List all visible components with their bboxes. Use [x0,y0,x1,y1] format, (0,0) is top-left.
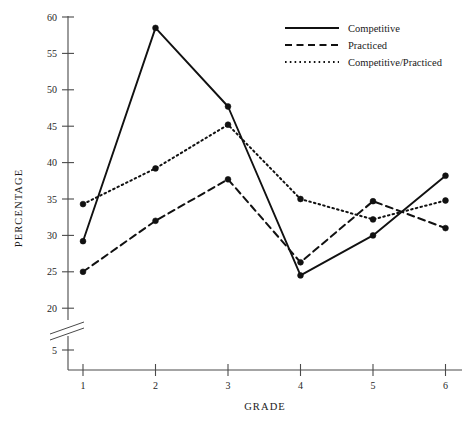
chart-figure: 6055504540353025205PERCENTAGE123456GRADE… [0,0,468,437]
y-tick-group: 6055504540353025205 [47,12,74,356]
data-point-2-4 [298,196,304,202]
legend: CompetitivePracticedCompetitive/Practice… [285,23,443,68]
series-competitive-practiced [80,122,448,223]
data-point-0-6 [443,173,449,179]
y-tick-label-35: 35 [47,194,57,205]
y-tick-label-50: 50 [47,84,57,95]
y-tick-label-55: 55 [47,48,57,59]
x-tick-label-3: 3 [226,380,231,391]
data-point-0-4 [298,273,304,279]
x-tick-label-1: 1 [81,380,86,391]
y-tick-label-5: 5 [52,345,57,356]
break-slash-bottom [50,328,84,340]
x-tick-label-5: 5 [371,380,376,391]
legend-label-2: Competitive/Practiced [348,57,443,68]
y-tick-label-30: 30 [47,230,57,241]
data-point-2-6 [443,198,449,204]
x-tick-label-2: 2 [153,380,158,391]
x-tick-label-6: 6 [443,380,448,391]
data-point-1-4 [298,259,304,265]
y-tick-label-20: 20 [47,303,57,314]
data-point-1-3 [225,176,231,182]
data-point-2-1 [80,201,86,207]
y-axis-break-icon [50,322,84,340]
data-point-0-3 [225,104,231,110]
legend-label-0: Competitive [348,23,400,34]
x-axis-title: GRADE [244,401,286,412]
data-point-1-6 [443,225,449,231]
line-chart-canvas: 6055504540353025205PERCENTAGE123456GRADE… [0,0,468,437]
y-tick-label-40: 40 [47,157,57,168]
data-point-0-1 [80,238,86,244]
data-point-2-5 [370,217,376,223]
data-point-2-3 [225,122,231,128]
data-point-1-5 [370,198,376,204]
data-point-0-2 [153,25,159,31]
y-axis-title: PERCENTAGE [13,169,24,247]
break-slash-top [50,322,84,334]
x-tick-group: 123456 [81,364,449,391]
data-point-0-5 [370,233,376,239]
data-point-1-2 [153,218,159,224]
y-tick-label-45: 45 [47,121,57,132]
y-tick-label-60: 60 [47,12,57,23]
y-tick-label-25: 25 [47,266,57,277]
series-line-2 [83,125,446,220]
legend-label-1: Practiced [348,40,388,51]
data-point-2-2 [153,166,159,172]
x-tick-label-4: 4 [298,380,303,391]
data-point-1-1 [80,269,86,275]
